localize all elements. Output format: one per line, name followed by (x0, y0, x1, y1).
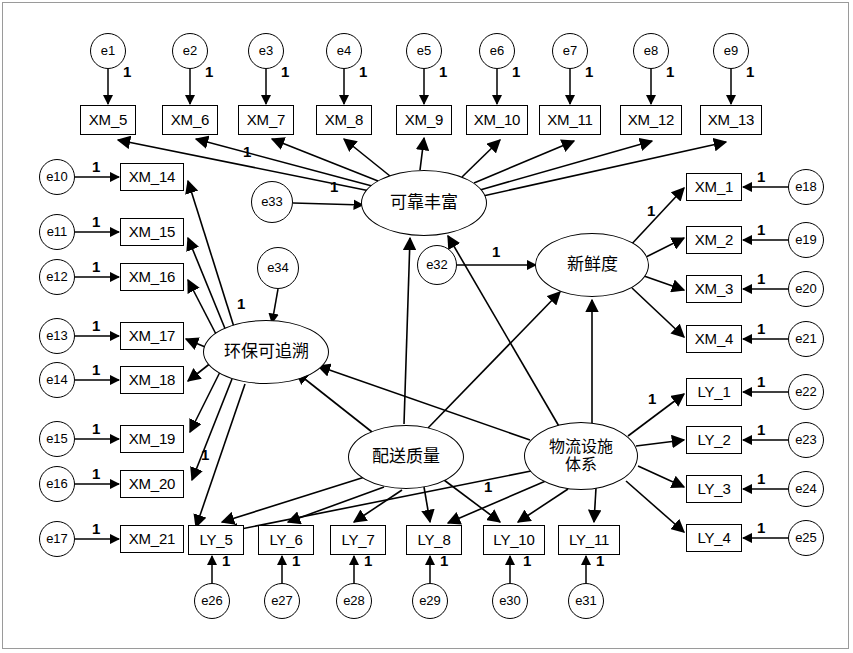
latent-variable-f_reliable[interactable]: 可靠丰富 (361, 170, 487, 236)
observed-variable-xm_9[interactable]: XM_9 (396, 105, 452, 135)
error-term-e19[interactable]: e19 (788, 222, 824, 258)
observed-variable-xm_10[interactable]: XM_10 (466, 105, 528, 135)
fixed-coefficient-label: 1 (439, 63, 447, 80)
observed-variable-xm_13[interactable]: XM_13 (700, 105, 762, 135)
observed-variable-ly_6[interactable]: LY_6 (258, 525, 314, 555)
fixed-coefficient-label: 1 (92, 465, 100, 482)
error-term-e21[interactable]: e21 (788, 321, 824, 357)
fixed-coefficient-label: 1 (757, 221, 765, 238)
observed-variable-ly_3[interactable]: LY_3 (686, 475, 742, 503)
error-term-e25[interactable]: e25 (788, 520, 824, 556)
fixed-coefficient-label: 1 (92, 158, 100, 175)
observed-variable-ly_5[interactable]: LY_5 (188, 525, 244, 555)
observed-variable-xm_11[interactable]: XM_11 (539, 105, 601, 135)
error-term-e8[interactable]: e8 (633, 33, 669, 69)
error-term-e2[interactable]: e2 (172, 33, 208, 69)
fixed-coefficient-label: 1 (757, 320, 765, 337)
observed-variable-xm_7[interactable]: XM_7 (238, 105, 294, 135)
fixed-coefficient-label: 1 (364, 552, 372, 569)
observed-variable-xm_4[interactable]: XM_4 (686, 325, 742, 353)
error-term-e29[interactable]: e29 (412, 583, 448, 619)
fixed-coefficient-label: 1 (746, 63, 754, 80)
fixed-coefficient-label: 1 (757, 470, 765, 487)
observed-variable-xm_17[interactable]: XM_17 (120, 322, 184, 350)
error-term-e4[interactable]: e4 (326, 33, 362, 69)
observed-variable-xm_14[interactable]: XM_14 (120, 163, 184, 191)
error-term-e16[interactable]: e16 (39, 466, 75, 502)
fixed-coefficient-label: 1 (757, 168, 765, 185)
error-term-e15[interactable]: e15 (39, 421, 75, 457)
error-term-e28[interactable]: e28 (336, 583, 372, 619)
fixed-coefficient-label: 1 (585, 63, 593, 80)
fixed-coefficient-label: 1 (512, 63, 520, 80)
fixed-coefficient-label: 1 (237, 295, 245, 312)
fixed-coefficient-label: 1 (648, 390, 656, 407)
observed-variable-xm_3[interactable]: XM_3 (686, 275, 742, 303)
error-term-e5[interactable]: e5 (406, 33, 442, 69)
error-term-e10[interactable]: e10 (39, 159, 75, 195)
observed-variable-xm_21[interactable]: XM_21 (120, 525, 184, 553)
observed-variable-xm_2[interactable]: XM_2 (686, 226, 742, 254)
error-term-e22[interactable]: e22 (788, 374, 824, 410)
error-term-e30[interactable]: e30 (492, 583, 528, 619)
error-term-e11[interactable]: e11 (39, 214, 75, 250)
error-term-e6[interactable]: e6 (479, 33, 515, 69)
observed-variable-ly_4[interactable]: LY_4 (686, 524, 742, 552)
observed-variable-ly_1[interactable]: LY_1 (686, 378, 742, 406)
observed-variable-ly_11[interactable]: LY_11 (558, 525, 620, 555)
observed-variable-xm_16[interactable]: XM_16 (120, 263, 184, 291)
observed-variable-xm_18[interactable]: XM_18 (120, 366, 184, 394)
observed-variable-xm_12[interactable]: XM_12 (620, 105, 682, 135)
latent-variable-f_eco[interactable]: 环保可追溯 (203, 320, 329, 384)
observed-variable-ly_8[interactable]: LY_8 (406, 525, 462, 555)
fixed-coefficient-label: 1 (359, 63, 367, 80)
observed-variable-ly_10[interactable]: LY_10 (483, 525, 545, 555)
error-term-e31[interactable]: e31 (568, 583, 604, 619)
fixed-coefficient-label: 1 (757, 421, 765, 438)
fixed-coefficient-label: 1 (440, 552, 448, 569)
latent-variable-f_delivery[interactable]: 配送质量 (348, 425, 464, 489)
error-term-e26[interactable]: e26 (194, 583, 230, 619)
fixed-coefficient-label: 1 (92, 420, 100, 437)
observed-variable-xm_5[interactable]: XM_5 (80, 105, 136, 135)
error-term-e3[interactable]: e3 (248, 33, 284, 69)
observed-variable-xm_20[interactable]: XM_20 (120, 470, 184, 498)
fixed-coefficient-label: 1 (281, 63, 289, 80)
fixed-coefficient-label: 1 (205, 63, 213, 80)
fixed-coefficient-label: 1 (757, 519, 765, 536)
fixed-coefficient-label: 1 (492, 243, 500, 260)
error-term-e7[interactable]: e7 (552, 33, 588, 69)
fixed-coefficient-label: 1 (292, 552, 300, 569)
error-term-e18[interactable]: e18 (788, 169, 824, 205)
error-term-e14[interactable]: e14 (39, 362, 75, 398)
error-term-e1[interactable]: e1 (90, 33, 126, 69)
observed-variable-xm_15[interactable]: XM_15 (120, 218, 184, 246)
fixed-coefficient-label: 1 (201, 446, 209, 463)
observed-variable-xm_1[interactable]: XM_1 (686, 173, 742, 201)
error-term-e34[interactable]: e34 (257, 247, 299, 289)
fixed-coefficient-label: 1 (92, 361, 100, 378)
fixed-coefficient-label: 1 (647, 202, 655, 219)
observed-variable-xm_19[interactable]: XM_19 (120, 425, 184, 453)
observed-variable-xm_6[interactable]: XM_6 (162, 105, 218, 135)
error-term-e12[interactable]: e12 (39, 259, 75, 295)
fixed-coefficient-label: 1 (92, 213, 100, 230)
fixed-coefficient-label: 1 (330, 178, 338, 195)
observed-variable-ly_7[interactable]: LY_7 (330, 525, 386, 555)
fixed-coefficient-label: 1 (123, 63, 131, 80)
error-term-e24[interactable]: e24 (788, 471, 824, 507)
error-term-e23[interactable]: e23 (788, 422, 824, 458)
latent-variable-f_logistics[interactable]: 物流设施体系 (524, 422, 638, 490)
error-term-e33[interactable]: e33 (251, 181, 293, 223)
error-term-e27[interactable]: e27 (264, 583, 300, 619)
error-term-e9[interactable]: e9 (713, 33, 749, 69)
error-term-e20[interactable]: e20 (788, 271, 824, 307)
fixed-coefficient-label: 1 (222, 552, 230, 569)
error-term-e13[interactable]: e13 (39, 318, 75, 354)
error-term-e32[interactable]: e32 (417, 245, 457, 285)
error-term-e17[interactable]: e17 (39, 521, 75, 557)
observed-variable-ly_2[interactable]: LY_2 (686, 426, 742, 454)
observed-variable-xm_8[interactable]: XM_8 (316, 105, 372, 135)
latent-variable-f_fresh[interactable]: 新鲜度 (535, 233, 649, 297)
fixed-coefficient-label: 1 (757, 373, 765, 390)
